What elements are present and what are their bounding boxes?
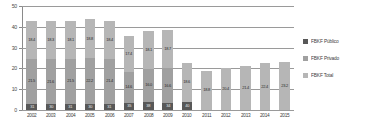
- bar-segment[interactable]: 20.4: [221, 68, 232, 110]
- legend-item[interactable]: FBKF Total: [303, 72, 367, 78]
- bar-group[interactable]: 3022.218.8: [85, 19, 96, 110]
- bar-segment[interactable]: 18.3: [46, 21, 57, 59]
- bar-segment[interactable]: 21.4: [104, 59, 115, 104]
- bar-segment[interactable]: 21.4: [240, 66, 251, 111]
- x-axis-tick-label: 2006: [100, 112, 118, 118]
- bar-segment[interactable]: 21.5: [65, 59, 76, 104]
- bar-value-label: 22.4: [261, 85, 268, 89]
- x-axis-tick-label: 2014: [256, 112, 274, 118]
- legend-label: FBKF Privado: [311, 55, 339, 61]
- x-axis-tick-label: 2004: [61, 112, 79, 118]
- x-axis-tick-label: 2012: [217, 112, 235, 118]
- bar-series-group: 3121.518.43021.618.33121.518.13022.218.8…: [22, 6, 294, 110]
- bar-value-label: 30: [49, 105, 53, 109]
- x-axis-tick-label: 2011: [197, 112, 215, 118]
- x-axis-tick-label: 2005: [81, 112, 99, 118]
- bar-group[interactable]: 21.4: [240, 66, 251, 111]
- bar-segment[interactable]: 18.4: [26, 21, 37, 59]
- x-axis-tick-label: 2003: [42, 112, 60, 118]
- bar-value-label: 18.6: [184, 80, 191, 84]
- bar-group[interactable]: 4018.6: [182, 63, 193, 110]
- bar-value-label: 31: [30, 105, 34, 109]
- chart-legend: FBKF PúblicoFBKF PrivadoFBKF Total: [303, 38, 367, 89]
- bar-segment[interactable]: 22.2: [85, 58, 96, 104]
- legend-label: FBKF Público: [311, 38, 339, 44]
- bar-segment[interactable]: 18.6: [182, 63, 193, 102]
- bar-segment[interactable]: 38: [143, 102, 154, 110]
- bar-group[interactable]: 3121.518.4: [26, 21, 37, 110]
- bar-segment[interactable]: 34: [162, 103, 173, 110]
- bar-value-label: 21.4: [106, 79, 113, 83]
- x-axis-tick-label: 2002: [22, 112, 40, 118]
- y-axis-tick-mark: [19, 89, 22, 90]
- bar-segment[interactable]: 31: [65, 104, 76, 110]
- legend-swatch-icon: [303, 73, 308, 78]
- x-axis-tick-label: 2008: [139, 112, 157, 118]
- y-axis-tick-label: 30: [3, 45, 17, 51]
- bar-segment[interactable]: 14.6: [124, 72, 135, 102]
- bar-group[interactable]: 23.2: [279, 62, 290, 110]
- plot-area: 3121.518.43021.618.33121.518.13022.218.8…: [22, 6, 294, 110]
- bar-segment[interactable]: 17.4: [124, 36, 135, 72]
- bar-group[interactable]: 3121.518.1: [65, 21, 76, 110]
- bar-segment[interactable]: 16.0: [143, 69, 154, 102]
- bar-segment[interactable]: 21.5: [26, 59, 37, 104]
- gridline: [22, 110, 294, 111]
- x-axis-tick-labels: 2002200320042005200620072008200920102011…: [22, 112, 294, 126]
- bar-segment[interactable]: 22.4: [260, 63, 271, 110]
- bar-segment[interactable]: 18.1: [143, 31, 154, 69]
- bar-value-label: 21.5: [28, 79, 35, 83]
- bar-group[interactable]: 3416.618.7: [162, 30, 173, 110]
- bar-segment[interactable]: 31: [104, 104, 115, 110]
- legend-label: FBKF Total: [311, 72, 333, 78]
- bar-segment[interactable]: 18.1: [65, 21, 76, 59]
- bar-segment[interactable]: 18.8: [201, 71, 212, 110]
- bar-value-label: 18.4: [106, 38, 113, 42]
- legend-item[interactable]: FBKF Privado: [303, 55, 367, 61]
- legend-item[interactable]: FBKF Público: [303, 38, 367, 44]
- bar-value-label: 18.1: [145, 48, 152, 52]
- bar-value-label: 18.8: [203, 88, 210, 92]
- y-axis-tick-mark: [19, 110, 22, 111]
- bar-segment[interactable]: 31: [26, 104, 37, 110]
- bar-value-label: 18.3: [48, 38, 55, 42]
- bar-value-label: 18.1: [67, 38, 74, 42]
- bar-segment[interactable]: 18.7: [162, 30, 173, 69]
- bar-value-label: 16.6: [164, 84, 171, 88]
- bar-group[interactable]: 3514.617.4: [124, 36, 135, 110]
- bar-segment[interactable]: 40: [182, 102, 193, 110]
- y-axis-tick-mark: [19, 48, 22, 49]
- y-axis-tick-label: 10: [3, 86, 17, 92]
- bar-segment[interactable]: 30: [46, 104, 57, 110]
- bar-value-label: 35: [127, 104, 131, 108]
- bar-group[interactable]: 3021.618.3: [46, 21, 57, 110]
- bar-segment[interactable]: 23.2: [279, 62, 290, 110]
- bar-group[interactable]: 20.4: [221, 68, 232, 110]
- bar-segment[interactable]: 18.4: [104, 21, 115, 59]
- bar-value-label: 31: [107, 105, 111, 109]
- bar-value-label: 17.4: [125, 52, 132, 56]
- bar-segment[interactable]: 21.6: [46, 59, 57, 104]
- bar-value-label: 21.5: [67, 79, 74, 83]
- bar-segment[interactable]: 35: [124, 103, 135, 110]
- bar-value-label: 14.6: [125, 86, 132, 90]
- legend-swatch-icon: [303, 39, 308, 44]
- y-axis-tick-mark: [19, 6, 22, 7]
- x-axis-tick-label: 2015: [275, 112, 293, 118]
- bar-value-label: 34: [166, 104, 170, 108]
- bar-group[interactable]: 22.4: [260, 63, 271, 110]
- chart-container: 3121.518.43021.618.33121.518.13022.218.8…: [0, 0, 368, 134]
- x-axis-tick-label: 2007: [120, 112, 138, 118]
- bar-segment[interactable]: 18.8: [85, 19, 96, 58]
- bar-segment[interactable]: 30: [85, 104, 96, 110]
- bar-group[interactable]: 18.8: [201, 71, 212, 110]
- y-axis-tick-mark: [19, 27, 22, 28]
- bar-value-label: 18.7: [164, 47, 171, 51]
- bar-segment[interactable]: 16.6: [162, 68, 173, 103]
- y-axis-tick-label: 40: [3, 24, 17, 30]
- bar-value-label: 20.4: [223, 87, 230, 91]
- bar-group[interactable]: 3816.018.1: [143, 31, 154, 110]
- bar-group[interactable]: 3121.418.4: [104, 21, 115, 110]
- bar-value-label: 16.0: [145, 83, 152, 87]
- bar-value-label: 40: [185, 104, 189, 108]
